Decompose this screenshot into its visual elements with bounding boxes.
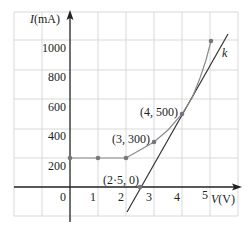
y-tick-400: 400	[48, 129, 66, 143]
annotation-3-300: (3, 300)	[112, 132, 150, 146]
iv-chart: I(mA) 1000 800 600 400 200 0 1 2 3 4 5 V…	[0, 0, 250, 225]
y-tick-1000: 1000	[42, 41, 66, 55]
y-tick-200: 200	[48, 159, 66, 173]
x-tick-5: 5	[202, 188, 208, 202]
y-tick-600: 600	[48, 100, 66, 114]
annotation-4-500: (4, 500)	[140, 105, 178, 119]
tangent-line-k	[127, 34, 228, 212]
line-k-label: k	[222, 46, 228, 60]
x-tick-3: 3	[146, 190, 152, 204]
y-axis-label: I(mA)	[29, 12, 60, 26]
x-tick-2: 2	[118, 190, 124, 204]
x-tick-4: 4	[174, 190, 180, 204]
x-tick-1: 1	[90, 190, 96, 204]
y-tick-800: 800	[48, 70, 66, 84]
x-axis-label: V(V)	[211, 192, 235, 206]
annotation-2-5-0: (2·5, 0)	[103, 173, 139, 187]
origin-label: 0	[60, 190, 66, 204]
